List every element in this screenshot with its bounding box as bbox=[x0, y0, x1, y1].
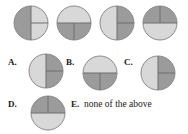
choice-d-circle[interactable] bbox=[30, 95, 66, 131]
choice-c-circle[interactable] bbox=[140, 55, 176, 91]
reference-circle-3 bbox=[99, 5, 135, 41]
choice-b-circle[interactable] bbox=[82, 55, 118, 91]
choice-e-text[interactable]: none of the above bbox=[84, 100, 152, 110]
choice-label-e[interactable]: E. bbox=[71, 100, 79, 109]
choice-label-a[interactable]: A. bbox=[8, 58, 17, 67]
figure-canvas: A. B. C. D bbox=[0, 0, 188, 134]
reference-circle-1 bbox=[13, 5, 49, 41]
reference-circle-2 bbox=[56, 5, 92, 41]
choice-a-circle[interactable] bbox=[28, 53, 64, 89]
choice-label-b[interactable]: B. bbox=[66, 58, 74, 67]
choice-label-d[interactable]: D. bbox=[8, 100, 17, 109]
reference-circle-4 bbox=[142, 5, 178, 41]
choice-label-c[interactable]: C. bbox=[124, 58, 133, 67]
